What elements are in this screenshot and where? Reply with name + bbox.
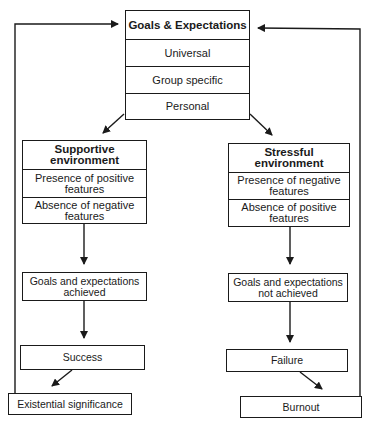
row-text: features <box>269 186 309 197</box>
absence-negative-row: Absence of negative features <box>23 197 146 223</box>
absence-positive-row: Absence of positive features <box>229 199 349 225</box>
burnout-box: Burnout <box>240 396 362 418</box>
title-line: environment <box>254 158 323 169</box>
stressful-environment-title: Stressful environment <box>229 144 349 172</box>
group-specific-row: Group specific <box>126 66 249 93</box>
success-box: Success <box>20 345 145 370</box>
universal-row: Universal <box>126 39 249 66</box>
row-text: Absence of negative <box>35 200 135 211</box>
row-text: features <box>269 213 309 224</box>
row-text: features <box>65 211 105 222</box>
goals-not-achieved-box: Goals and expectations not achieved <box>228 273 348 302</box>
goals-achieved-box: Goals and expectations achieved <box>22 272 147 301</box>
success-label: Success <box>63 352 103 363</box>
goals-expectations-box: Goals & Expectations Universal Group spe… <box>125 10 250 120</box>
burnout-label: Burnout <box>283 402 320 413</box>
failure-label: Failure <box>271 355 303 366</box>
existential-significance-label: Existential significance <box>17 399 123 410</box>
outcome-text: achieved <box>63 287 105 298</box>
personal-row: Personal <box>126 93 249 119</box>
presence-negative-row: Presence of negative features <box>229 172 349 199</box>
outcome-text: Goals and expectations <box>233 277 343 288</box>
supportive-environment-box: Supportive environment Presence of posit… <box>22 140 147 224</box>
goals-expectations-title: Goals & Expectations <box>126 11 249 39</box>
row-text: Absence of positive <box>241 202 336 213</box>
existential-significance-box: Existential significance <box>8 393 132 415</box>
presence-positive-row: Presence of positive features <box>23 169 146 197</box>
outcome-text: not achieved <box>258 288 318 299</box>
stressful-environment-box: Stressful environment Presence of negati… <box>228 143 350 227</box>
outcome-text: Goals and expectations <box>30 276 140 287</box>
title-line: environment <box>50 155 119 166</box>
row-text: Presence of positive <box>35 173 134 184</box>
failure-box: Failure <box>226 349 348 372</box>
row-text: features <box>65 184 105 195</box>
supportive-environment-title: Supportive environment <box>23 141 146 169</box>
